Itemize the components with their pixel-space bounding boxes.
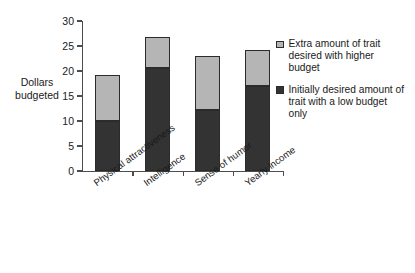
y-axis-title-line-1: Dollars: [6, 76, 68, 89]
y-axis-tick-mark: [77, 95, 82, 96]
y-axis-tick-label: 0: [46, 166, 74, 177]
x-axis-tick-mark: [283, 171, 284, 176]
bar-segment-extra-amount: [95, 75, 120, 121]
y-axis-tick-label: 25: [46, 41, 74, 52]
bar-segment-extra-amount: [245, 50, 270, 86]
y-axis-tick-label: 15: [46, 91, 74, 102]
y-axis-tick-mark: [77, 45, 82, 46]
stacked-bar-chart: Dollars budgeted 051015202530 Physical a…: [0, 0, 415, 273]
x-axis-tick-mark: [183, 171, 184, 176]
legend-item-label: Extra amount of trait desired with highe…: [289, 38, 407, 75]
y-axis-tick-label: 5: [46, 141, 74, 152]
bar-segment-extra-amount: [195, 56, 220, 110]
x-axis-tick-mark: [233, 171, 234, 176]
y-axis-tick-mark: [77, 20, 82, 21]
x-axis-tick-mark: [132, 171, 133, 176]
y-axis-tick-mark: [77, 70, 82, 71]
chart-legend: Extra amount of trait desired with highe…: [276, 38, 414, 129]
legend-item-label: Initially desired amount of trait with a…: [289, 84, 407, 121]
y-axis-tick-label: 30: [46, 16, 74, 27]
bar-segment-initial-amount: [145, 68, 170, 171]
legend-item: Initially desired amount of trait with a…: [276, 84, 414, 121]
bar-group: [245, 50, 270, 171]
y-axis-tick-mark: [77, 145, 82, 146]
bar-segment-extra-amount: [145, 37, 170, 68]
dark-gray-square-icon: [276, 86, 284, 94]
y-axis-tick-mark: [77, 120, 82, 121]
y-axis-tick-mark: [77, 170, 82, 171]
legend-item: Extra amount of trait desired with highe…: [276, 38, 414, 75]
bar-segment-initial-amount: [245, 86, 270, 171]
bar-group: [95, 75, 120, 171]
y-axis-tick-label: 20: [46, 66, 74, 77]
y-axis-line: [82, 21, 83, 171]
bar-group: [195, 56, 220, 171]
light-gray-square-icon: [276, 41, 284, 49]
y-axis-tick-label: 10: [46, 116, 74, 127]
